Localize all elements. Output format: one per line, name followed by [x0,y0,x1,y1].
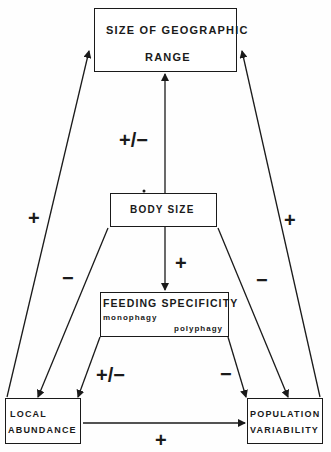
sign-feeding-to-variability: − [220,364,232,384]
node-body-size: BODY SIZE [110,193,217,227]
node-geographic-range: SIZE OF GEOGRAPHIC RANGE [94,8,237,72]
range-line2: RANGE [145,51,191,63]
node-population-variability: POPULATION VARIABILITY [247,398,323,444]
edge-variability-to-range [242,51,320,397]
body-size-label: BODY SIZE [130,204,195,215]
abundance-line1: LOCAL [10,409,47,419]
sign-abundance-to-range: + [28,208,40,228]
sign-body-to-feeding: + [175,253,187,273]
variability-line2: VARIABILITY [250,425,319,435]
range-line1: SIZE OF GEOGRAPHIC [106,24,249,36]
node-feeding-specificity: FEEDING SPECIFICITY monophagy polyphagy [100,292,229,337]
sign-feeding-to-abundance: +/− [96,365,125,385]
feeding-to: polyphagy [174,324,223,333]
sign-body-to-variability: − [256,270,268,290]
feeding-from: monophagy [103,313,157,322]
variability-line1: POPULATION [250,409,320,419]
abundance-line2: ABUNDANCE [8,425,77,435]
sign-body-to-abundance: − [62,268,74,288]
node-local-abundance: LOCAL ABUNDANCE [5,398,81,444]
edge-abundance-to-range [7,51,89,397]
feeding-label: FEEDING SPECIFICITY [103,297,238,309]
sign-body-to-range: +/− [119,130,148,150]
sign-variability-to-range: + [284,210,296,230]
diagram: SIZE OF GEOGRAPHIC RANGE BODY SIZE FEEDI… [0,0,331,452]
sign-abundance-to-variability: + [155,430,167,450]
